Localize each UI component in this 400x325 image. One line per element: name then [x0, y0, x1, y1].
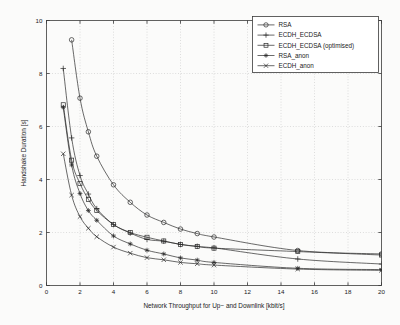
y-tick-label: 0	[39, 282, 43, 289]
legend-label: RSA	[279, 21, 293, 28]
y-axis-label: Handshake Duration [s]	[20, 119, 28, 186]
legend-label: ECDH_ECDSA (optimised)	[279, 42, 355, 50]
chart-legend: RSAECDH_ECDSAECDH_ECDSA (optimised)RSA_a…	[253, 17, 379, 73]
x-tick-label: 12	[244, 288, 251, 295]
legend-label: ECDH_anon	[279, 62, 315, 70]
x-tick-label: 20	[378, 288, 385, 295]
legend-label: RSA_anon	[279, 52, 310, 60]
x-tick-label: 10	[211, 288, 218, 295]
x-tick-label: 4	[112, 288, 116, 295]
x-tick-label: 6	[145, 288, 149, 295]
x-tick-label: 2	[78, 288, 82, 295]
handshake-duration-line-chart: 02468101214161820 0246810 RSAECDH_ECDSAE…	[0, 0, 400, 325]
x-tick-label: 0	[45, 288, 49, 295]
legend-label: ECDH_ECDSA	[279, 31, 323, 39]
x-tick-label: 16	[311, 288, 318, 295]
x-tick-label: 8	[179, 288, 183, 295]
x-tick-label: 14	[278, 288, 285, 295]
y-tick-label: 4	[39, 176, 43, 183]
x-axis-label: Network Throughput for Up− and Downlink …	[143, 302, 284, 310]
chart-figure: 02468101214161820 0246810 RSAECDH_ECDSAE…	[0, 0, 400, 325]
y-tick-label: 8	[39, 70, 43, 77]
y-tick-label: 6	[39, 123, 43, 130]
y-tick-label: 2	[39, 229, 43, 236]
y-tick-label: 10	[36, 17, 43, 24]
x-tick-label: 18	[345, 288, 352, 295]
